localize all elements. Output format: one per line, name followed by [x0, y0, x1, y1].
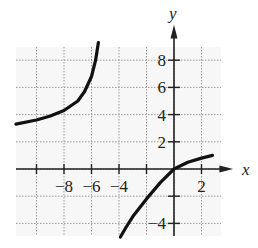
x-axis-arrow-icon: [219, 166, 233, 173]
y-axis-arrow-icon: [171, 25, 178, 39]
y-tick-label: −4: [148, 214, 167, 233]
grid: [16, 47, 221, 236]
y-tick-label: 8: [158, 51, 167, 70]
rational-function-graph: −8−6−428642−4xy: [0, 0, 258, 248]
y-tick-label: 4: [158, 106, 167, 125]
y-axis-label: y: [167, 4, 177, 23]
y-tick-label: 6: [158, 78, 167, 97]
x-tick-label: 2: [197, 177, 206, 196]
x-tick-label: −6: [82, 177, 100, 196]
x-tick-label: −8: [55, 177, 73, 196]
x-axis-label: x: [241, 160, 250, 179]
x-tick-label: −4: [110, 177, 129, 196]
y-tick-label: 2: [158, 133, 167, 152]
